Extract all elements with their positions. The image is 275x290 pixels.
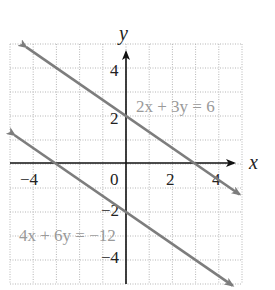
x-tick-label: −4 [20,170,39,189]
y-axis-label: y [117,22,128,45]
equation-label-1: 2x + 3y = 6 [136,97,215,116]
equation-label-2: 4x + 6y = −12 [19,226,116,245]
coordinate-plane-chart: x y −4 0 2 4 4 2 −2 −4 2x + 3y = 6 4x + … [0,0,275,290]
y-tick-label: −4 [101,248,120,267]
x-tick-label: 2 [166,170,175,189]
x-axis-label: x [248,151,258,173]
line-2x-3y-6 [26,47,239,194]
y-tick-label: 4 [110,61,119,80]
x-tick-label: 0 [110,170,119,189]
y-tick-label: 2 [110,109,119,128]
line-4x-6y-neg12 [15,135,233,285]
